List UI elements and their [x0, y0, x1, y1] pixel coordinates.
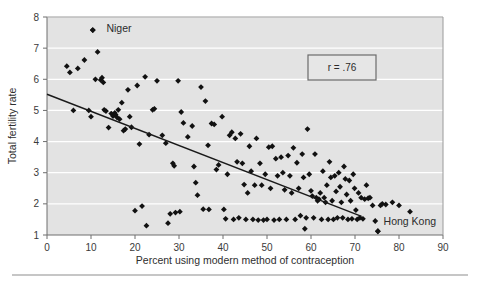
correlation-value: r = .76: [328, 62, 357, 73]
x-tick-label-30: 30: [173, 242, 185, 253]
x-tick-label-0: 0: [44, 242, 50, 253]
x-tick-label-60: 60: [305, 242, 317, 253]
x-tick-label-10: 10: [85, 242, 97, 253]
x-tick-label-70: 70: [349, 242, 361, 253]
chart-canvas: 12345678 0102030405060708090 r = .76 Nig…: [0, 0, 480, 284]
scatter-plot-figure: 12345678 0102030405060708090 r = .76 Nig…: [0, 0, 480, 284]
y-tick-label-2: 2: [33, 198, 39, 209]
x-tick-label-80: 80: [393, 242, 405, 253]
hong-kong-label: Hong Kong: [384, 215, 437, 227]
y-tick-label-8: 8: [33, 12, 39, 23]
niger-label: Niger: [106, 22, 132, 34]
x-tick-label-40: 40: [217, 242, 229, 253]
x-tick-label-50: 50: [261, 242, 273, 253]
y-tick-label-4: 4: [33, 136, 39, 147]
y-tick-label-6: 6: [33, 74, 39, 85]
x-tick-label-20: 20: [129, 242, 141, 253]
y-tick-label-5: 5: [33, 105, 39, 116]
correlation-annotation: r = .76: [308, 55, 376, 80]
y-axis-title: Total fertility rate: [6, 88, 18, 165]
y-tick-label-7: 7: [33, 43, 39, 54]
x-axis-title: Percent using modern method of contracep…: [136, 254, 354, 266]
x-tick-label-90: 90: [437, 242, 449, 253]
y-tick-label-1: 1: [33, 230, 39, 241]
y-tick-label-3: 3: [33, 167, 39, 178]
